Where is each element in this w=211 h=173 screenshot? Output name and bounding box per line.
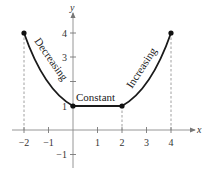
x-tick-label: −2 xyxy=(19,137,30,148)
point-marker xyxy=(21,30,26,35)
point-marker xyxy=(119,103,124,108)
constant-annotation: Constant xyxy=(76,91,115,103)
x-tick-label: 4 xyxy=(169,137,174,148)
function-graph: −2 −1 1 2 3 4 4 3 1 −1 x y Decreasing Co… xyxy=(0,0,211,173)
point-marker xyxy=(70,103,75,108)
x-tick-label: 2 xyxy=(120,137,125,148)
x-tick-label: −1 xyxy=(43,137,54,148)
y-axis-label: y xyxy=(69,2,75,13)
x-tick-label: 3 xyxy=(144,137,149,148)
y-tick-label: −1 xyxy=(56,149,67,160)
x-tick-label: 1 xyxy=(95,137,100,148)
point-marker xyxy=(168,30,173,35)
y-tick-label: 3 xyxy=(62,52,67,63)
y-tick-label: 4 xyxy=(62,28,67,39)
increasing-annotation: Increasing xyxy=(124,45,159,90)
x-axis-label: x xyxy=(196,124,202,135)
